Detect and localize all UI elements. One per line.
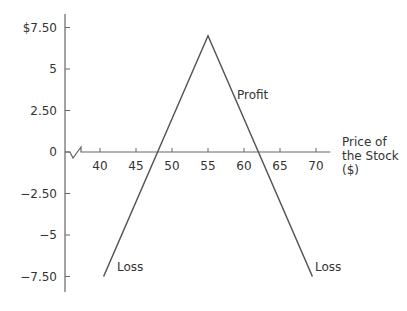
payoff-chart: $7.5052.500−2.50−5−7.50 40455055606570 P… — [0, 0, 407, 311]
annotation-loss: Loss — [117, 260, 143, 274]
y-tick-label: $7.50 — [23, 21, 57, 35]
x-axis-title: Price ofthe Stock($) — [342, 135, 399, 177]
y-tick-label: 2.50 — [30, 104, 57, 118]
x-axis: 40455055606570 — [65, 147, 330, 173]
x-tick-label: 50 — [164, 159, 179, 173]
x-tick-label: 70 — [308, 159, 323, 173]
annotation-profit: Profit — [237, 88, 269, 102]
y-tick-label: −2.50 — [20, 187, 57, 201]
annotation-loss: Loss — [315, 260, 341, 274]
y-tick-label: −5 — [39, 228, 57, 242]
y-tick-label: −7.50 — [20, 270, 57, 284]
axis-break-icon — [65, 147, 330, 158]
payoff-line — [104, 36, 313, 277]
x-tick-label: 60 — [236, 159, 251, 173]
y-tick-label: 5 — [49, 62, 57, 76]
x-axis-title-line: Price of — [342, 135, 387, 149]
x-axis-title-line: ($) — [342, 163, 359, 177]
x-tick-label: 45 — [128, 159, 143, 173]
x-tick-label: 40 — [92, 159, 107, 173]
x-axis-title-line: the Stock — [342, 149, 399, 163]
x-tick-label: 55 — [200, 159, 215, 173]
y-tick-label: 0 — [49, 145, 57, 159]
x-tick-label: 65 — [272, 159, 287, 173]
y-axis: $7.5052.500−2.50−5−7.50 — [20, 14, 70, 292]
annotations: ProfitLossLoss — [117, 88, 341, 274]
